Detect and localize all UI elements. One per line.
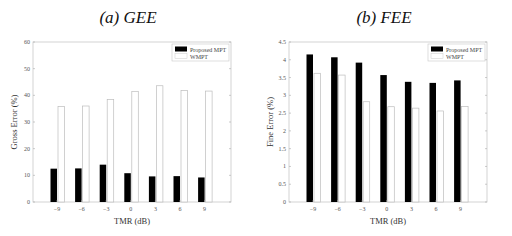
legend-label-proposed-mpt: Proposed MPT (190, 47, 227, 53)
gee-bar-wmpt (58, 107, 65, 202)
gee-xtick-label: 9 (203, 206, 206, 212)
gee-bar-proposed-mpt (149, 176, 156, 202)
fee-bar-proposed-mpt (405, 82, 412, 202)
fee-ytick-label: 2.5 (279, 110, 287, 116)
gee-ytick-label: 10 (24, 172, 30, 178)
fee-xtick-label: 3 (410, 206, 413, 212)
gee-x-axis-label: TMR (dB) (114, 216, 150, 226)
gee-bar-proposed-mpt (100, 165, 107, 202)
fee-ytick-label: 3 (283, 92, 286, 98)
fee-ytick-label: 0 (283, 199, 286, 205)
fee-y-axis-label: Fine Error (%) (265, 97, 275, 147)
fee-xtick-label: 0 (385, 206, 388, 212)
fee-bar-wmpt (363, 102, 370, 202)
fee-chart-plot: 00.511.522.533.544.5−9−6−30369TMR (dB)Fi… (256, 0, 512, 236)
gee-bar-wmpt (83, 106, 90, 202)
gee-xtick-label: −9 (54, 206, 60, 212)
fee-bar-wmpt (388, 107, 395, 202)
legend-swatch-wmpt (431, 54, 443, 59)
fee-ytick-label: 0.5 (279, 181, 287, 187)
gee-ytick-label: 40 (24, 92, 30, 98)
gee-xtick-label: −6 (78, 206, 84, 212)
fee-bar-proposed-mpt (380, 75, 387, 202)
legend-label-proposed-mpt: Proposed MPT (446, 47, 483, 53)
gee-xtick-label: −3 (103, 206, 109, 212)
fee-bar-proposed-mpt (331, 57, 338, 202)
gee-bar-wmpt (181, 91, 188, 202)
gee-ytick-label: 20 (24, 146, 30, 152)
fee-legend: Proposed MPTWMPT (428, 44, 485, 61)
fee-bar-proposed-mpt (307, 54, 314, 202)
gee-ytick-label: 0 (27, 199, 30, 205)
gee-bar-proposed-mpt (174, 176, 181, 202)
gee-xtick-label: 0 (129, 206, 132, 212)
gee-bar-proposed-mpt (75, 168, 82, 202)
gee-bar-wmpt (156, 86, 163, 202)
legend-label-wmpt: WMPT (190, 54, 208, 60)
legend-label-wmpt: WMPT (446, 54, 464, 60)
gee-y-axis-label: Gross Error (%) (9, 94, 19, 149)
gee-xtick-label: 3 (154, 206, 157, 212)
fee-ytick-label: 1.5 (279, 146, 287, 152)
fee-bar-wmpt (314, 73, 321, 202)
fee-bar-proposed-mpt (454, 80, 461, 202)
fee-xtick-label: −9 (310, 206, 316, 212)
fee-ytick-label: 4.5 (279, 39, 287, 45)
gee-bar-proposed-mpt (124, 173, 131, 202)
fee-bar-wmpt (462, 106, 469, 202)
gee-legend: Proposed MPTWMPT (172, 44, 229, 61)
fee-ytick-label: 3.5 (279, 75, 287, 81)
fee-x-axis-label: TMR (dB) (370, 216, 406, 226)
gee-bar-proposed-mpt (51, 169, 58, 202)
gee-chart-panel: (a) GEE 0102030405060−9−6−30369TMR (dB)G… (0, 0, 256, 236)
fee-xtick-label: −3 (359, 206, 365, 212)
fee-ytick-label: 1 (283, 163, 286, 169)
legend-swatch-proposed-mpt (431, 47, 443, 52)
gee-ytick-label: 30 (24, 119, 30, 125)
gee-bar-proposed-mpt (198, 177, 205, 202)
fee-bar-proposed-mpt (430, 83, 437, 202)
gee-ytick-label: 50 (24, 66, 30, 72)
gee-ytick-label: 60 (24, 39, 30, 45)
fee-xtick-label: −6 (334, 206, 340, 212)
fee-ytick-label: 4 (283, 57, 286, 63)
gee-bar-wmpt (107, 100, 114, 202)
fee-bar-wmpt (412, 108, 419, 202)
legend-swatch-wmpt (175, 54, 187, 59)
legend-swatch-proposed-mpt (175, 47, 187, 52)
fee-bar-wmpt (339, 75, 346, 202)
gee-xtick-label: 6 (179, 206, 182, 212)
fee-ytick-label: 2 (283, 128, 286, 134)
gee-bar-wmpt (132, 91, 139, 202)
fee-bar-proposed-mpt (356, 63, 363, 202)
gee-bar-wmpt (206, 91, 213, 202)
fee-xtick-label: 6 (435, 206, 438, 212)
fee-chart-panel: (b) FEE 00.511.522.533.544.5−9−6−30369TM… (256, 0, 512, 236)
fee-xtick-label: 9 (459, 206, 462, 212)
gee-chart-plot: 0102030405060−9−6−30369TMR (dB)Gross Err… (0, 0, 256, 236)
fee-bar-wmpt (437, 111, 444, 202)
